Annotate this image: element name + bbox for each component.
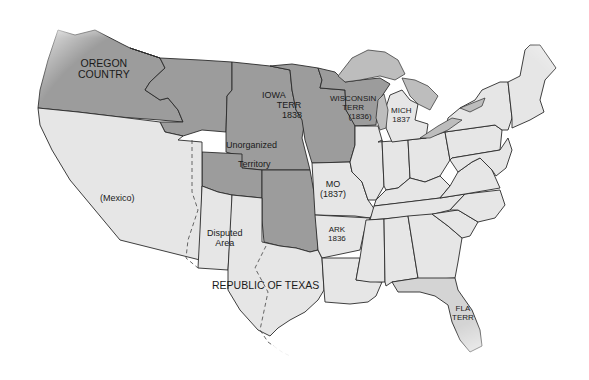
label-line: TERR — [330, 103, 376, 112]
label-oregon-country: OREGON COUNTRY — [78, 58, 130, 80]
label-wisconsin-territory: WISCONSIN TERR (1836) — [330, 94, 376, 121]
label-line: Area — [207, 238, 243, 248]
top-fade — [0, 0, 589, 38]
label-line: TERR — [262, 100, 302, 110]
label-unorganized-territory: Unorganized Territory — [226, 140, 277, 169]
label-missouri: MO (1837) — [320, 179, 346, 199]
label-line: COUNTRY — [78, 69, 130, 80]
label-line: IOWA — [262, 90, 302, 100]
label-line: Territory — [226, 159, 277, 169]
label-iowa-territory: IOWA TERR 1838 — [262, 90, 302, 120]
label-arkansas: ARK 1836 — [328, 225, 346, 243]
label-line: 1837 — [391, 115, 411, 124]
label-line: ARK — [328, 225, 346, 234]
label-line: Unorganized — [226, 140, 277, 150]
label-line: Disputed — [207, 228, 243, 238]
label-line: 1836 — [328, 234, 346, 243]
label-michigan: MICH 1837 — [391, 106, 411, 124]
label-disputed-area: Disputed Area — [207, 228, 243, 248]
label-line: 1838 — [262, 110, 302, 120]
label-line: MO — [320, 179, 346, 189]
label-line: TERR — [452, 313, 474, 322]
label-florida-territory: FLA TERR — [452, 304, 474, 322]
label-republic-of-texas: REPUBLIC OF TEXAS — [212, 280, 319, 291]
label-mexico: (Mexico) — [100, 193, 135, 203]
label-line: MICH — [391, 106, 411, 115]
label-line: FLA — [452, 304, 474, 313]
label-line: (1837) — [320, 189, 346, 199]
label-line: (1836) — [330, 112, 376, 121]
label-line: WISCONSIN — [330, 94, 376, 103]
